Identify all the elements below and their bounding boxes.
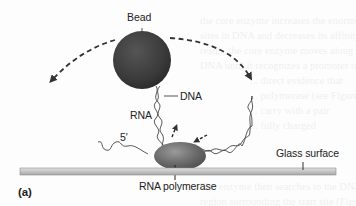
label-bead: Bead <box>127 11 151 23</box>
figure-panel-a: the core enzyme increases the enormous a… <box>0 0 356 206</box>
label-rna-polymerase: RNA polymerase <box>139 180 216 192</box>
label-five-prime: 5′ <box>120 131 128 143</box>
label-rna: RNA <box>130 109 152 121</box>
dna-tether <box>154 86 165 150</box>
label-dna: DNA <box>180 90 202 102</box>
bead <box>113 28 171 89</box>
dna-downstream <box>196 96 253 155</box>
label-glass-surface: Glass surface <box>276 147 339 159</box>
motion-arrows <box>172 127 207 141</box>
swing-arc-right <box>170 38 250 77</box>
diagram-artwork <box>0 0 356 206</box>
swing-arc-left <box>52 40 115 80</box>
panel-label: (a) <box>18 186 32 198</box>
rna-strand <box>98 142 148 154</box>
